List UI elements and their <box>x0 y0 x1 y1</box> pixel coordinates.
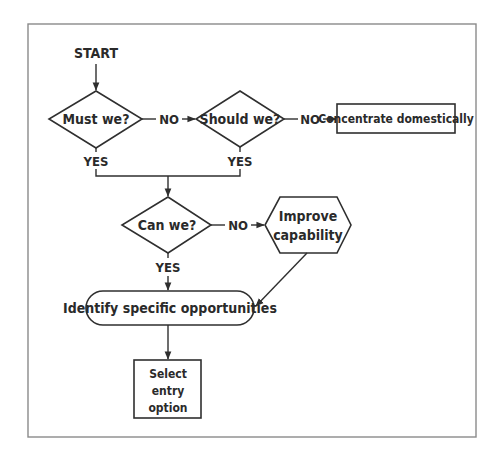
node-select-label-line3: option <box>148 401 187 415</box>
node-select-label-line2: entry <box>152 384 185 398</box>
node-identify-label: Identify specific opportunities <box>63 300 277 316</box>
node-select-entry-option: Select entry option <box>134 360 201 418</box>
node-should-label: Should we? <box>200 111 281 127</box>
edge-can-yes-label: YES <box>155 260 181 275</box>
diagram-frame <box>28 24 476 437</box>
node-improve-label-line2: capability <box>273 227 343 243</box>
edge-can-no-label: NO <box>228 218 248 233</box>
node-improve-label-line1: Improve <box>279 208 337 224</box>
node-can-label: Can we? <box>138 217 197 233</box>
node-concentrate-domestically: Concentrate domestically <box>318 104 474 133</box>
edge-must-yes-label: YES <box>83 154 109 169</box>
edge-should-yes-label: YES <box>227 154 253 169</box>
node-must-label: Must we? <box>63 111 130 127</box>
node-select-label-line1: Select <box>149 367 187 381</box>
node-concentrate-label: Concentrate domestically <box>318 112 474 126</box>
preparation-hexagon-improve <box>265 197 351 253</box>
edge-should-no-label: NO <box>300 112 320 127</box>
node-improve-capability: Improve capability <box>265 197 351 253</box>
flowchart-diagram: START Must we? NO Should we? NO Concentr… <box>0 0 499 457</box>
node-start-label: START <box>74 45 118 61</box>
edge-must-no-label: NO <box>159 112 179 127</box>
node-identify-opportunities: Identify specific opportunities <box>63 291 277 325</box>
